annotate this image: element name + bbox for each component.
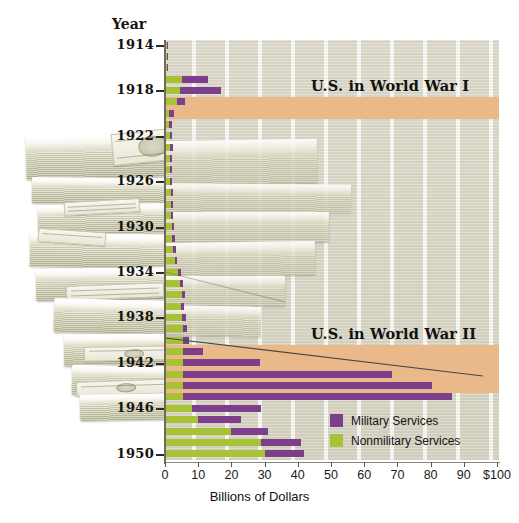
- bar-nonmilitary-1945: [165, 393, 183, 400]
- bar-military-1932: [173, 246, 175, 253]
- bar-military-1925: [170, 166, 172, 173]
- bar-nonmilitary-1942: [165, 359, 183, 366]
- legend-label-military: Military Services: [351, 414, 438, 428]
- year-label-1930: 1930: [96, 219, 154, 234]
- year-tick-1918: [156, 90, 164, 92]
- year-label-1918: 1918: [96, 82, 154, 97]
- stack-overlay-bundle: [165, 183, 351, 213]
- year-label-1950: 1950: [96, 446, 154, 461]
- bar-nonmilitary-1919: [165, 98, 177, 105]
- bar-military-1922: [170, 132, 172, 139]
- bar-military-1916: [167, 64, 168, 71]
- bar-military-1950: [265, 450, 305, 457]
- year-tick-1934: [156, 272, 164, 274]
- bar-nonmilitary-1944: [165, 382, 183, 389]
- bar-military-1929: [171, 212, 173, 219]
- x-tick-5: [331, 462, 332, 467]
- bar-military-1934: [178, 269, 180, 276]
- x-tick-6: [364, 462, 365, 467]
- bar-military-1947: [198, 416, 241, 423]
- bar-nonmilitary-1949: [165, 439, 261, 446]
- bar-military-1939: [183, 325, 187, 332]
- bar-nonmilitary-1950: [165, 450, 265, 457]
- bar-nonmilitary-1931: [165, 235, 172, 242]
- x-tick-10: [497, 462, 498, 467]
- legend-item-military[interactable]: Military Services: [330, 412, 460, 429]
- year-label-1922: 1922: [96, 128, 154, 143]
- x-tick-8: [431, 462, 432, 467]
- bar-nonmilitary-1946: [165, 405, 192, 412]
- bar-nonmilitary-1938: [165, 314, 182, 321]
- infographic-chart: U.S. in World War I U.S. in World War II…: [0, 0, 519, 523]
- bar-military-1927: [171, 189, 173, 196]
- bar-military-1943: [183, 371, 392, 378]
- x-axis-line: [164, 462, 500, 463]
- bar-military-1940: [183, 337, 189, 344]
- x-axis-title: Billions of Dollars: [0, 489, 519, 504]
- year-tick-1950: [156, 454, 164, 456]
- year-tick-1914: [156, 45, 164, 47]
- bar-nonmilitary-1936: [165, 291, 182, 298]
- bar-military-1915: [167, 53, 168, 60]
- x-tick-7: [397, 462, 398, 467]
- stack-overlay-bundle: [165, 241, 315, 277]
- bar-military-1935: [180, 280, 183, 287]
- year-label-1934: 1934: [96, 264, 154, 279]
- y-axis-title: Year: [112, 16, 146, 32]
- year-tick-1930: [156, 227, 164, 229]
- bar-nonmilitary-1939: [165, 325, 183, 332]
- year-tick-1942: [156, 363, 164, 365]
- x-tick-0: [165, 462, 166, 467]
- bar-military-1944: [183, 382, 432, 389]
- bar-nonmilitary-1937: [165, 303, 181, 310]
- year-tick-1926: [156, 181, 164, 183]
- x-tick-1: [198, 462, 199, 467]
- bar-military-1926: [170, 178, 172, 185]
- bar-military-1919: [177, 98, 185, 105]
- bar-nonmilitary-1932: [165, 246, 173, 253]
- bar-nonmilitary-1943: [165, 371, 183, 378]
- x-tick-3: [265, 462, 266, 467]
- bar-military-1942: [183, 359, 259, 366]
- bar-military-1921: [169, 121, 172, 128]
- x-tick-9: [464, 462, 465, 467]
- bar-nonmilitary-1917: [165, 76, 182, 83]
- year-tick-1938: [156, 317, 164, 319]
- legend-swatch-nonmilitary-icon: [330, 434, 343, 447]
- bar-nonmilitary-1941: [165, 348, 183, 355]
- bar-military-1928: [171, 201, 173, 208]
- year-label-1926: 1926: [96, 173, 154, 188]
- bar-military-1945: [183, 393, 452, 400]
- x-tick-4: [298, 462, 299, 467]
- bar-military-1917: [182, 76, 209, 83]
- bar-nonmilitary-1933: [165, 257, 175, 264]
- x-tick-2: [231, 462, 232, 467]
- bar-military-1914: [167, 42, 168, 49]
- bar-military-1948: [231, 428, 268, 435]
- year-label-1914: 1914: [96, 37, 154, 52]
- bar-military-1930: [172, 223, 174, 230]
- bar-military-1941: [183, 348, 203, 355]
- bar-nonmilitary-1934: [165, 269, 178, 276]
- bar-military-1936: [182, 291, 185, 298]
- bar-nonmilitary-1948: [165, 428, 231, 435]
- y-axis-line: [164, 40, 166, 464]
- ww1-highlight-band: [165, 97, 499, 119]
- bar-military-1931: [172, 235, 174, 242]
- bar-nonmilitary-1940: [165, 337, 183, 344]
- legend-swatch-military-icon: [330, 414, 343, 427]
- legend-item-nonmilitary[interactable]: Nonmilitary Services: [330, 432, 460, 449]
- year-tick-1946: [156, 408, 164, 410]
- bar-military-1920: [169, 110, 174, 117]
- bar-military-1946: [192, 405, 262, 412]
- bar-military-1949: [261, 439, 301, 446]
- ww1-band-label: U.S. in World War I: [311, 77, 469, 94]
- x-label-100: $100: [475, 468, 519, 482]
- year-label-1942: 1942: [96, 355, 154, 370]
- plot-area: U.S. in World War I U.S. in World War II: [165, 40, 499, 460]
- bar-military-1937: [181, 303, 184, 310]
- bar-military-1918: [180, 87, 222, 94]
- bar-military-1933: [175, 257, 177, 264]
- bar-military-1923: [170, 144, 172, 151]
- year-tick-1922: [156, 136, 164, 138]
